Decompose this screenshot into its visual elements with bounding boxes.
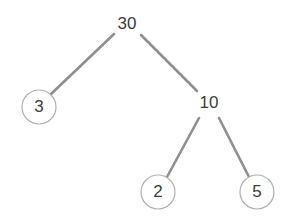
tree-edge-30-to-10 — [141, 35, 197, 91]
node-label-10: 10 — [200, 93, 219, 112]
node-label-3: 3 — [34, 97, 43, 116]
node-label-30: 30 — [118, 14, 137, 33]
node-label-5: 5 — [252, 182, 261, 201]
node-label-2: 2 — [153, 182, 162, 201]
tree-node-30: 30 — [118, 14, 137, 33]
tree-canvas: 3031025 — [0, 0, 285, 222]
binary-tree-diagram: 3031025 — [0, 0, 285, 222]
tree-edge-10-to-2 — [167, 118, 199, 177]
tree-edge-30-to-3 — [50, 34, 114, 95]
edges-group — [50, 34, 249, 177]
tree-node-10: 10 — [200, 93, 219, 112]
tree-edge-10-to-5 — [219, 118, 249, 177]
tree-node-3: 3 — [22, 90, 56, 124]
tree-node-2: 2 — [141, 175, 175, 209]
tree-node-5: 5 — [240, 175, 274, 209]
